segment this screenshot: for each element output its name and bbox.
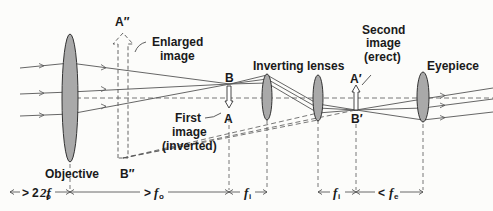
enlarged-leader [135,42,146,52]
label-A: A [224,112,233,126]
second-image-leader [362,75,371,85]
dim-label-fo: > f o [144,185,164,201]
svg-text:2: 2 [32,186,39,200]
rays-to-inverting [230,75,423,120]
inverting-lens-2 [313,75,323,121]
label-enlarged-1: Enlarged [152,35,203,49]
label-B-double: B″ [120,167,135,181]
svg-text:>: > [22,186,29,200]
dim-label-fi-2: f i [333,185,340,201]
label-eyepiece: Eyepiece [427,59,479,73]
second-image-arrow [352,85,360,110]
inverting-lens-1 [262,74,272,120]
label-inverting-lenses: Inverting lenses [253,59,345,73]
label-enlarged-2: image [160,49,195,63]
dimension-lines [10,190,423,195]
label-second-3: (erect) [364,50,401,64]
label-B-prime: B′ [351,112,363,126]
label-first-3: (inverted) [162,139,217,153]
svg-text:i: i [249,192,251,201]
svg-text:e: e [394,192,399,201]
svg-text:o: o [159,192,164,201]
label-A-prime: A′ [350,72,362,86]
label-second-2: image [366,36,401,50]
dim-label-fi-1: f i [244,185,251,201]
dim-label-2fo: > 2 2f o [22,185,53,201]
objective-lens [62,34,78,162]
label-first-1: First [175,111,201,125]
svg-text:>: > [144,186,151,200]
label-second-1: Second [362,23,405,37]
eyepiece-lens [417,72,429,122]
svg-text:i: i [338,192,340,201]
first-image-arrow [225,86,233,108]
svg-text:<: < [378,186,385,200]
label-B: B [225,71,234,85]
label-A-double: A″ [115,15,130,29]
label-objective: Objective [45,167,99,181]
dim-label-fe: < f e [378,185,399,201]
enlarged-image-arrow [113,33,133,158]
label-first-2: image [172,125,207,139]
first-image-leader [205,113,221,118]
outgoing-rays [423,88,493,120]
svg-text:o: o [46,192,51,201]
telescope-diagram: A″ Enlarged image B A First image (inver… [0,0,493,211]
diagram-canvas: A″ Enlarged image B A First image (inver… [0,0,493,211]
objective-rays [70,63,230,114]
